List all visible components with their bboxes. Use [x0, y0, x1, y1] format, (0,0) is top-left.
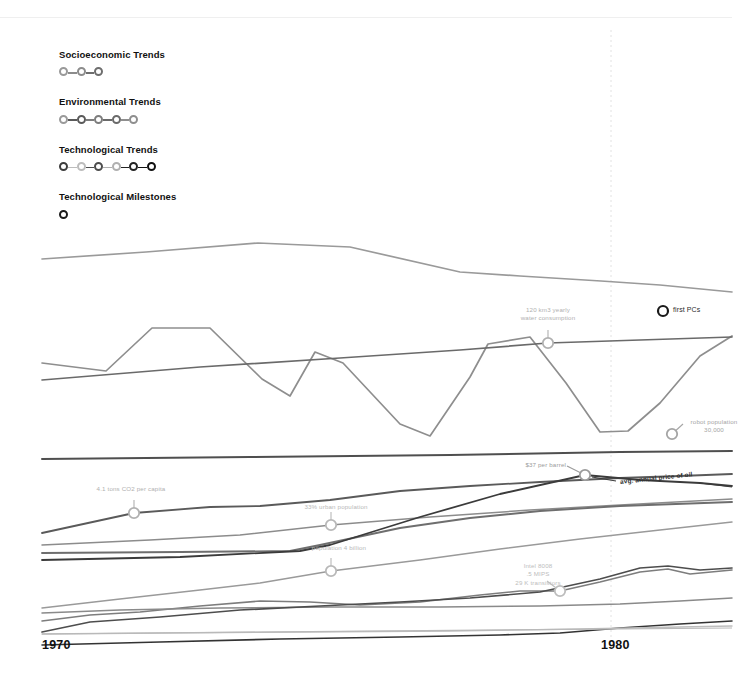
legend-dot-environmental-3[interactable] — [112, 115, 121, 124]
milestone-marker-first-pcs[interactable] — [658, 306, 668, 316]
annotation-marker-co2-per-capita[interactable] — [129, 500, 139, 518]
legend-dot-row — [59, 65, 319, 81]
legend-connector — [86, 119, 95, 121]
legend-dot-row — [59, 160, 319, 176]
legend-dot-milestones-0[interactable] — [59, 210, 68, 219]
series-line — [42, 569, 732, 621]
annotation-dot[interactable] — [555, 586, 565, 596]
x-axis-baseline — [42, 628, 732, 634]
series-line — [42, 328, 732, 436]
legend-connector — [121, 167, 130, 169]
annotation-label-world-population: population 4 billion — [296, 544, 382, 552]
series-line — [42, 522, 732, 608]
legend-connector — [86, 72, 95, 74]
milestone-label-first-pcs: first PCs — [673, 306, 700, 313]
legend-dot-environmental-0[interactable] — [59, 115, 68, 124]
legend: Socioeconomic TrendsEnvironmental Trends… — [59, 50, 319, 240]
legend-group-title: Environmental Trends — [59, 97, 319, 107]
legend-dot-technological-4[interactable] — [129, 162, 138, 171]
legend-dot-environmental-2[interactable] — [94, 115, 103, 124]
legend-group-environmental: Environmental Trends — [59, 97, 319, 128]
series-line — [42, 337, 732, 380]
legend-dot-technological-0[interactable] — [59, 162, 68, 171]
legend-connector — [68, 72, 77, 74]
legend-dot-socioeconomic-2[interactable] — [94, 67, 103, 76]
annotation-label-water-consumption: 120 km3 yearly water consumption — [505, 306, 591, 323]
legend-group-socioeconomic: Socioeconomic Trends — [59, 50, 319, 81]
annotation-dot[interactable] — [129, 508, 139, 518]
legend-connector — [68, 119, 77, 121]
annotation-dot[interactable] — [543, 338, 553, 348]
annotation-label-urban-population: 33% urban population — [293, 503, 379, 511]
series-line — [42, 243, 732, 292]
legend-connector — [68, 167, 77, 169]
legend-group-title: Technological Milestones — [59, 192, 319, 202]
legend-dot-row — [59, 208, 319, 224]
legend-dot-socioeconomic-1[interactable] — [77, 67, 86, 76]
annotation-dot[interactable] — [326, 566, 336, 576]
legend-connector — [103, 119, 112, 121]
annotation-label-co2-per-capita: 4.1 tons CO2 per capita — [88, 485, 174, 493]
legend-group-title: Technological Trends — [59, 145, 319, 155]
series-line — [42, 451, 732, 459]
legend-dot-technological-3[interactable] — [112, 162, 121, 171]
legend-dot-technological-1[interactable] — [77, 162, 86, 171]
annotation-marker-urban-population[interactable] — [326, 512, 336, 530]
x-axis-tick-label: 1980 — [601, 638, 630, 652]
annotation-label-robot-population: robot population 30,000 — [671, 418, 742, 435]
annotation-marker-world-population[interactable] — [326, 558, 336, 576]
legend-group-technological: Technological Trends — [59, 145, 319, 176]
legend-connector — [121, 119, 130, 121]
annotation-marker-water-consumption[interactable] — [543, 330, 553, 348]
series-line — [42, 566, 732, 632]
legend-dot-environmental-4[interactable] — [129, 115, 138, 124]
legend-connector — [138, 167, 147, 169]
x-axis-tick-label: 1970 — [42, 638, 71, 652]
annotation-dot[interactable] — [580, 470, 590, 480]
legend-group-milestones: Technological Milestones — [59, 192, 319, 223]
legend-dot-socioeconomic-0[interactable] — [59, 67, 68, 76]
legend-dot-technological-2[interactable] — [94, 162, 103, 171]
annotation-label-oil-price: $37 per barrel — [480, 461, 566, 469]
annotation-label-intel-8008: Intel 8008 .5 MIPS 29 K transistors — [495, 562, 581, 587]
legend-dot-row — [59, 113, 319, 129]
annotation-dot[interactable] — [326, 520, 336, 530]
legend-group-title: Socioeconomic Trends — [59, 50, 319, 60]
legend-dot-technological-5[interactable] — [147, 162, 156, 171]
legend-connector — [103, 167, 112, 169]
legend-dot-environmental-1[interactable] — [77, 115, 86, 124]
legend-connector — [86, 167, 95, 169]
